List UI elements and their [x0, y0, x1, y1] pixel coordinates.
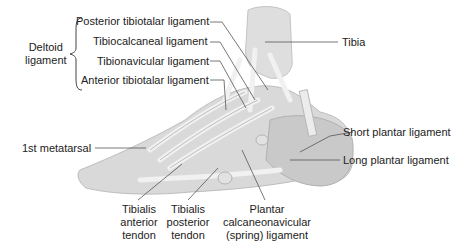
deltoid-label-line1: Deltoid: [25, 41, 67, 54]
label-tibia: Tibia: [342, 36, 365, 49]
label-tibiocalcaneal: Tibiocalcaneal ligament: [93, 35, 208, 48]
label-long-plantar: Long plantar ligament: [343, 154, 449, 167]
deltoid-label: Deltoid ligament: [25, 41, 67, 67]
spring-l1: Plantar: [218, 203, 316, 216]
label-spring-ligament: Plantar calcaneonavicular (spring) ligam…: [218, 203, 316, 242]
tib-ant-l3: tendon: [113, 229, 165, 242]
label-tibialis-anterior: Tibialis anterior tendon: [113, 203, 165, 242]
spring-l3: (spring) ligament: [218, 229, 316, 242]
tib-ant-l2: anterior: [113, 216, 165, 229]
label-anterior-tibiotalar: Anterior tibiotalar ligament: [81, 74, 209, 87]
tib-post-l1: Tibialis: [163, 203, 213, 216]
label-posterior-tibiotalar: Posterior tibiotalar ligament: [76, 15, 209, 28]
tib-ant-l1: Tibialis: [113, 203, 165, 216]
label-tibionavicular: Tibionavicular ligament: [97, 55, 209, 68]
label-short-plantar: Short plantar ligament: [343, 126, 451, 139]
tib-post-l3: tendon: [163, 229, 213, 242]
deltoid-label-line2: ligament: [25, 54, 67, 67]
tib-post-l2: posterior: [163, 216, 213, 229]
label-tibialis-posterior: Tibialis posterior tendon: [163, 203, 213, 242]
spring-l2: calcaneonavicular: [218, 216, 316, 229]
label-first-metatarsal: 1st metatarsal: [22, 142, 91, 155]
